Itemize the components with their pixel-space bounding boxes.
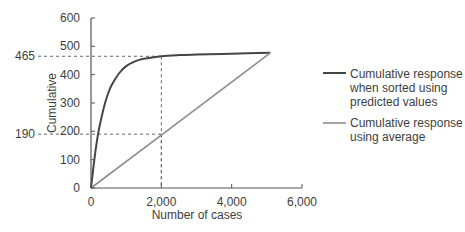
axes xyxy=(91,18,302,188)
legend-label-average-line1: Cumulative response xyxy=(350,116,463,130)
x-tick-label: 4,000 xyxy=(217,195,247,209)
y-tick-label: 500 xyxy=(60,39,80,53)
y-tick-label: 0 xyxy=(73,181,80,195)
y-tick-label: 300 xyxy=(60,96,80,110)
legend: Cumulative response when sorted using pr… xyxy=(323,67,463,144)
y-tick-label: 200 xyxy=(60,124,80,138)
x-tick-label: 6,000 xyxy=(287,195,317,209)
legend-label-sorted-line2: when sorted using xyxy=(349,81,447,95)
legend-label-sorted-line1: Cumulative response xyxy=(350,67,463,81)
x-axis-label: Number of cases xyxy=(152,208,243,222)
y-axis-label: Cumulative xyxy=(45,73,59,133)
y-tick-label: 100 xyxy=(60,153,80,167)
legend-item-average: Cumulative response using average xyxy=(323,116,463,144)
legend-item-sorted: Cumulative response when sorted using pr… xyxy=(323,67,463,109)
tick-labels: 010020030040050060002,0004,0006,00046519… xyxy=(15,11,317,209)
legend-label-sorted-line3: predicted values xyxy=(350,95,437,109)
x-tick-label: 2,000 xyxy=(146,195,176,209)
y-tick-label: 600 xyxy=(60,11,80,25)
plot-series xyxy=(91,53,270,188)
series-average xyxy=(91,53,270,188)
cumulative-gains-chart: 010020030040050060002,0004,0006,00046519… xyxy=(0,0,465,232)
x-tick-label: 0 xyxy=(88,195,95,209)
y-tick-label: 400 xyxy=(60,68,80,82)
reference-label: 190 xyxy=(15,127,35,141)
legend-label-average-line2: using average xyxy=(350,130,426,144)
reference-label: 465 xyxy=(15,49,35,63)
